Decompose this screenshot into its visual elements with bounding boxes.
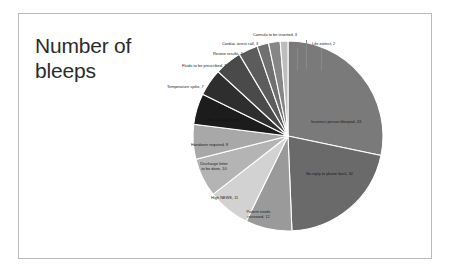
slice-label-cannula-inserted: Cannula to be inserted, 3 (253, 33, 297, 38)
slice-label-high-news: High NEWS, 11 (211, 196, 238, 201)
slice-label-handover-required: Handover required, 9 (191, 143, 228, 148)
leader-line-cannula (306, 40, 307, 69)
slice-label-fluids-prescribed: Fluids to be prescribed, 7 (182, 64, 226, 69)
slice-label-life-extinct: Life extinct, 2 (312, 42, 335, 47)
pie-slice[interactable] (288, 41, 383, 156)
slice-label-patient-needs-reviewed: Patient needs reviewed, 12 (242, 210, 275, 220)
slice-label-no-reply: No reply to phone back, 32 (306, 172, 353, 177)
slice-label-cardiac-arrest: Cardiac arrest call, 3 (222, 42, 258, 47)
leader-line-life-extinct (321, 48, 322, 70)
slice-label-incorrect-person: Incorrect person bleeped, 43 (311, 120, 361, 125)
slide-frame: Number of bleeps Cannula to be inserted,… (18, 13, 432, 259)
slice-label-jobs-handed-over: Jobs handed over, 8 (207, 118, 242, 123)
slice-label-temperature-spike: Temperature spike, 7 (167, 85, 204, 90)
pie-slices (193, 41, 383, 231)
leader-line-cardiac (297, 48, 298, 70)
slice-label-discharge-letter: Discharge letter to be done, 10 (199, 162, 229, 172)
slice-label-review-results: Review results, 5 (213, 52, 243, 57)
pie-chart[interactable]: Cannula to be inserted, 3 Cardiac arrest… (149, 18, 431, 258)
pie-chart-svg (149, 18, 431, 258)
